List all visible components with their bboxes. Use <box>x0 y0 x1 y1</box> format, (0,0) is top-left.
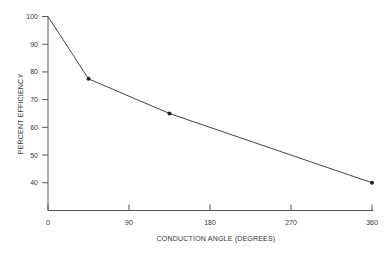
y-tick-label: 40 <box>30 179 38 186</box>
y-tick-label: 80 <box>30 68 38 75</box>
efficiency-chart: 405060708090100 090180270360 PERCENT EFF… <box>0 0 391 254</box>
x-tick-label: 90 <box>125 219 133 226</box>
y-tick-label: 70 <box>30 96 38 103</box>
y-tick-label: 50 <box>30 152 38 159</box>
axes <box>48 17 373 211</box>
x-axis-ticks: 090180270360 <box>46 205 378 226</box>
x-tick-label: 0 <box>46 219 50 226</box>
y-axis-title: PERCENT EFFICIENCY <box>17 74 24 155</box>
data-point-marker <box>370 181 374 185</box>
y-axis-ticks: 405060708090100 <box>26 13 48 186</box>
efficiency-line <box>48 17 372 183</box>
y-tick-label: 60 <box>30 124 38 131</box>
y-tick-label: 90 <box>30 41 38 48</box>
data-series <box>48 17 374 185</box>
x-tick-label: 360 <box>366 219 378 226</box>
y-tick-label: 100 <box>26 13 38 20</box>
x-axis-title: CONDUCTION ANGLE (DEGREES) <box>157 235 276 243</box>
x-tick-label: 180 <box>204 219 216 226</box>
data-point-marker <box>87 77 91 81</box>
data-point-marker <box>168 112 172 116</box>
x-tick-label: 270 <box>285 219 297 226</box>
